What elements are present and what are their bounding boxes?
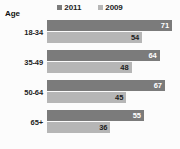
bar-pair: 6448 [47,49,180,79]
bar-2009-50-64[interactable]: 45 [47,92,126,103]
legend-swatch-2009-icon [98,5,103,10]
bar-2011-65+[interactable]: 55 [47,110,144,121]
legend-label-2009: 2009 [105,3,122,12]
bar-value-label: 64 [149,51,157,60]
plot-area: 18-34715435-49644850-64674565+5536 [0,19,180,149]
bar-2011-18-34[interactable]: 71 [47,20,172,31]
bar-group: 50-646745 [0,79,180,109]
bar-pair: 7154 [47,19,180,49]
bar-pair: 5536 [47,109,180,139]
bar-value-label: 71 [161,21,169,30]
bar-value-label: 55 [133,111,141,120]
legend-item-2011[interactable]: 2011 [57,3,81,12]
chart-legend: 2011 2009 [0,1,180,14]
bar-2009-65+[interactable]: 36 [47,122,110,133]
bar-group: 18-347154 [0,19,180,49]
category-label: 65+ [0,118,43,127]
category-label: 50-64 [0,88,43,97]
bar-2011-50-64[interactable]: 67 [47,80,165,91]
category-label: 35-49 [0,58,43,67]
bar-chart: 2011 2009 Age 18-34715435-49644850-64674… [0,0,180,149]
bar-group: 35-496448 [0,49,180,79]
bar-value-label: 48 [120,63,128,72]
bar-value-label: 54 [131,33,139,42]
bar-group: 65+5536 [0,109,180,139]
bar-value-label: 36 [99,123,107,132]
bar-2009-35-49[interactable]: 48 [47,62,132,73]
legend-label-2011: 2011 [64,3,81,12]
bar-pair: 6745 [47,79,180,109]
bar-2009-18-34[interactable]: 54 [47,32,142,43]
legend-swatch-2011-icon [57,5,62,10]
legend-item-2009[interactable]: 2009 [98,3,122,12]
bar-value-label: 67 [154,81,162,90]
axis-title-age: Age [5,9,20,18]
bar-2011-35-49[interactable]: 64 [47,50,160,61]
category-label: 18-34 [0,28,43,37]
bar-value-label: 45 [115,93,123,102]
